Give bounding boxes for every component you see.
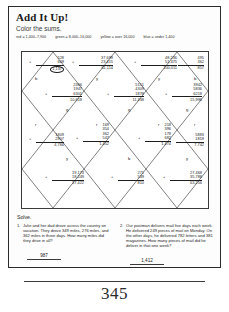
problem-answer-1[interactable]: 987 (27, 253, 61, 260)
sum: 10,618 (52, 96, 82, 102)
addend: 682 (145, 136, 171, 140)
grid-cell-p6: 5151 4309 1878 11,338 (114, 83, 144, 102)
sum: 1,452 (83, 141, 109, 147)
addend: 6218 (172, 92, 202, 96)
color-tag-p3: y (158, 76, 160, 81)
problem-number: 1. (17, 223, 20, 228)
legend-item-red: red = 1,400–7,900 (16, 35, 46, 40)
color-tag-p4: b (194, 76, 196, 81)
page-subtitle: Color the sums. (16, 25, 220, 32)
addend: 547 (83, 136, 109, 140)
problem-number: 2. (120, 223, 123, 228)
sum: 4,766 (36, 142, 64, 148)
page-number: 345 (0, 284, 229, 304)
addend: 1859 (176, 137, 204, 141)
addend: 609 (36, 60, 64, 64)
addend: 362 (178, 60, 204, 64)
addend: 35,788 (170, 175, 202, 179)
sum: 1,137 (36, 65, 64, 73)
legend-item-blue: blue = under 1,400 (143, 35, 174, 40)
diamond-puzzle-grid: 528 609 1,137 b 37,699 23,415 61,114 y 4… (21, 51, 209, 209)
sum: 63,256 (170, 180, 202, 186)
grid-cell-p14: 27,468 35,788 63,256 (170, 171, 202, 186)
legend-item-yellow: yellow = over 16,000 (100, 35, 134, 40)
color-tag-p5: g (66, 107, 68, 112)
sum: 37,422 (52, 180, 84, 186)
sum: 61,114 (79, 65, 113, 71)
problem-text: Our postman delivers mail five days each… (126, 223, 215, 248)
grid-cell-p10: 218 396 178 682 1,474 (145, 123, 171, 146)
grid-cell-p2: 37,699 23,415 61,114 (79, 56, 113, 71)
color-legend: red = 1,400–7,900 green = 8,000–16,000 y… (16, 35, 220, 40)
addend: 1878 (114, 92, 144, 96)
color-tag-p1: b (35, 76, 37, 81)
color-tag-p11: r (194, 122, 195, 127)
addend: 23,415 (79, 60, 113, 64)
sum: 7,742 (176, 142, 204, 148)
problem-answer-2[interactable]: 1,412 (130, 258, 164, 265)
word-problems: 1. Julie and her dad drove across the co… (17, 223, 215, 266)
sum: 11,338 (114, 96, 144, 102)
grid-cell-p5: 2366 1947 6301 10,618 (52, 83, 82, 102)
addend: 18,249 (52, 175, 84, 179)
color-tag-p14: y (186, 156, 188, 161)
page-title: Add It Up! (16, 12, 220, 23)
grid-cell-p9: 169 354 362 547 1,452 (83, 123, 109, 146)
sum: 810 (118, 180, 144, 186)
word-problem-1: 1. Julie and her dad drove across the co… (17, 223, 112, 266)
grid-cell-p8: 1809 2907 4,766 (36, 133, 64, 148)
sum: 100,011 (141, 65, 177, 71)
solve-heading: Solve. (17, 214, 31, 220)
legend-item-green: green = 8,000–16,000 (55, 35, 91, 40)
color-tag-p7: g (186, 107, 188, 112)
footer-divider (24, 281, 205, 282)
grid-cell-p4: 495 362 857 (178, 56, 204, 71)
word-problem-2: 2. Our postman delivers mail five days e… (120, 223, 215, 266)
addend: 539 (118, 175, 144, 179)
worksheet-page: Add It Up! Color the sums. red = 1,400–7… (8, 6, 221, 268)
color-tag-p12: y (66, 156, 68, 161)
addend: 6301 (52, 92, 82, 96)
color-tag-p8: r (35, 122, 36, 127)
sum: 15,996 (172, 96, 202, 102)
grid-cell-p12: 19,173 18,249 37,422 (52, 171, 84, 186)
grid-cell-p7: 3942 5836 6218 15,996 (172, 83, 202, 102)
grid-cell-p1: 528 609 1,137 (36, 56, 64, 73)
grid-cell-p11: 5883 1859 7,742 (176, 133, 204, 148)
color-tag-p2: y (96, 76, 98, 81)
addend: 2907 (36, 137, 64, 141)
problem-text: Julie and her dad drove across the count… (23, 223, 112, 243)
grid-cell-p13: 271 539 810 (118, 171, 144, 186)
color-tag-p13: b (128, 156, 130, 161)
sum: 1,474 (145, 141, 171, 147)
color-tag-p6: g (128, 107, 130, 112)
sum: 857 (178, 65, 204, 71)
